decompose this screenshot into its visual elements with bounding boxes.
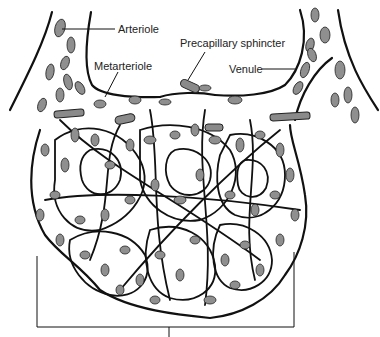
diagram-canvas: Arteriole Metarteriole Precapillary sphi…: [0, 0, 380, 337]
precapillary-sphincter-leader: [188, 52, 205, 80]
metarteriole-label: Metarteriole: [94, 60, 152, 72]
capillary-bed-diagram: Arteriole Metarteriole Precapillary sphi…: [0, 0, 380, 337]
venule-label: Venule: [229, 63, 263, 75]
capillary-bed-outline: [31, 125, 306, 318]
precapillary-sphincter-label: Precapillary sphincter: [180, 37, 285, 49]
metarteriole-channel: [160, 93, 215, 97]
arteriole-label: Arteriole: [118, 23, 159, 35]
